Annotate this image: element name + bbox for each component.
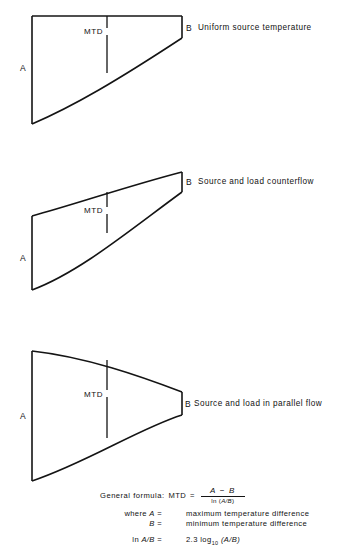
definition-row-a: where A = maximum temperature difference [100, 509, 348, 519]
ln-identity-row: ln A/B = 2.3 log10 (A/B) [100, 535, 348, 547]
formula-term: MTD [169, 492, 187, 500]
panel3-caption: Source and load in parallel flow [194, 399, 322, 408]
diagram-canvas [0, 0, 348, 560]
panel1-caption: Uniform source temperature [198, 23, 312, 32]
panel2-label-b: B [186, 177, 192, 187]
panel-parallel-flow-artwork [32, 351, 182, 481]
ln-identity-lhs: ln A/B = [100, 535, 162, 545]
formula-denominator-body: A/B [221, 497, 232, 504]
formula-denominator-suffix: ) [232, 497, 234, 504]
definition-a-text: maximum temperature difference [162, 509, 309, 519]
log-token: log10 [200, 535, 218, 544]
formula-definitions: where A = maximum temperature difference… [100, 509, 348, 530]
definition-b-symbol: B [149, 519, 154, 528]
definition-a-symbol: A [149, 509, 154, 518]
log-argument: (A/B) [221, 535, 240, 544]
panel-uniform-source-artwork [32, 16, 182, 124]
panel1-label-a: A [20, 63, 26, 73]
formula-main-row: General formula: MTD = A − B ln (A/B) [100, 487, 348, 505]
formula-equals: = [190, 492, 195, 500]
definition-b-key: B = [100, 519, 162, 529]
formula-fraction: A − B ln (A/B) [201, 487, 245, 505]
ln-identity-rhs: 2.3 log10 (A/B) [162, 535, 240, 547]
formula-numerator: A − B [205, 487, 241, 496]
panel-counterflow-artwork [32, 172, 182, 290]
panel2-label-mtd: MTD [84, 206, 103, 215]
ln-coefficient: 2.3 [186, 535, 198, 544]
panel3-label-b: B [185, 399, 191, 409]
formula-general-label: General formula: [100, 492, 165, 500]
log-subscript: 10 [212, 540, 219, 546]
ln-prefix: ln [132, 535, 139, 544]
panel1-label-b: B [186, 23, 192, 33]
definition-row-b: B = minimum temperature difference [100, 519, 348, 529]
ln-lhs-symbol: A/B [141, 535, 154, 544]
formula-denominator-prefix: ln ( [211, 497, 221, 504]
formula-denominator: ln (A/B) [211, 497, 234, 505]
general-formula-block: General formula: MTD = A − B ln (A/B) wh… [100, 487, 348, 547]
definition-a-key: where A = [100, 509, 162, 519]
panel3-label-mtd: MTD [84, 390, 103, 399]
definition-b-text: minimum temperature difference [162, 519, 307, 529]
panel2-label-a: A [20, 253, 26, 263]
panel3-label-a: A [20, 411, 26, 421]
panel1-label-mtd: MTD [84, 27, 103, 36]
panel2-caption: Source and load counterflow [198, 177, 314, 186]
figure-sheet: A MTD B Uniform source temperature A MTD… [0, 0, 348, 560]
log-base-label: log [200, 535, 211, 544]
where-label: where [124, 509, 146, 518]
